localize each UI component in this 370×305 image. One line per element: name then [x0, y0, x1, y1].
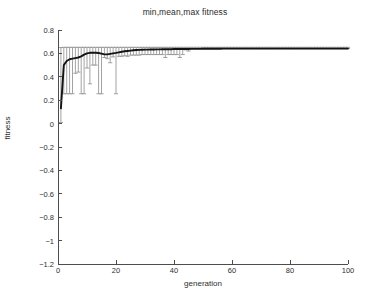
y-tick-label: −1.2 [39, 260, 54, 269]
plot-area [58, 30, 348, 264]
chart-title: min,mean,max fitness [0, 7, 370, 17]
y-tick-label: 0 [50, 119, 54, 128]
y-tick-label: −0.4 [39, 166, 54, 175]
y-tick-label: −0.8 [39, 213, 54, 222]
y-tick-label: 0.4 [44, 72, 54, 81]
x-tick-label: 80 [286, 266, 294, 275]
y-tick-label: −0.2 [39, 143, 54, 152]
x-tick-label: 100 [342, 266, 355, 275]
x-tick-label: 20 [112, 266, 120, 275]
x-tick-label: 40 [170, 266, 178, 275]
x-tick-label: 60 [228, 266, 236, 275]
y-tick-label: 0.6 [44, 49, 54, 58]
y-axis-tick-labels: 0.80.60.40.20−0.2−0.4−0.6−0.8−1−1.2 [0, 30, 54, 264]
fitness-chart-figure: min,mean,max fitness 0.80.60.40.20−0.2−0… [0, 0, 370, 305]
plot-svg [58, 30, 348, 264]
x-tick-label: 0 [56, 266, 60, 275]
y-tick-label: 0.2 [44, 96, 54, 105]
y-tick-label: 0.8 [44, 26, 54, 35]
y-axis-label: fitness [3, 116, 12, 139]
x-axis-tick-labels: 020406080100 [58, 266, 348, 280]
x-axis-label: generation [58, 279, 348, 288]
y-tick-label: −1 [45, 236, 54, 245]
errorbar-series [59, 47, 350, 122]
y-tick-label: −0.6 [39, 189, 54, 198]
